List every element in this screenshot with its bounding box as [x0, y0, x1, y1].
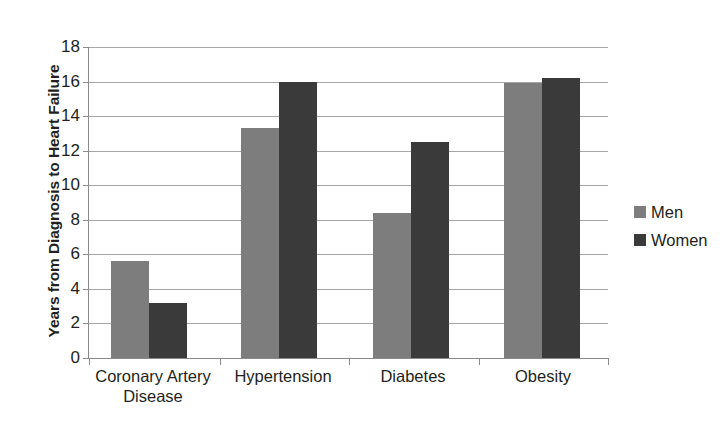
bar-coronary-artery-disease-men: [111, 261, 149, 358]
y-tick-label-18: 18: [40, 38, 80, 55]
legend-label-women: Women: [651, 231, 708, 249]
gridline-18: [89, 47, 608, 48]
x-divider-2: [349, 358, 350, 365]
y-tick-label-8: 8: [40, 211, 80, 228]
y-tick-label-14: 14: [40, 107, 80, 124]
y-tick-14: [83, 116, 89, 117]
legend-item-men: Men: [634, 198, 726, 226]
y-tick-label-6: 6: [40, 245, 80, 262]
x-cat-label-obesity: Obesity: [458, 366, 628, 386]
chart-legend: MenWomen: [634, 198, 726, 254]
y-tick-label-4: 4: [40, 280, 80, 297]
y-tick-label-2: 2: [40, 314, 80, 331]
y-tick-label-16: 16: [40, 73, 80, 90]
legend-swatch-women: [634, 234, 646, 246]
legend-item-women: Women: [634, 226, 726, 254]
y-tick-2: [83, 323, 89, 324]
bar-obesity-men: [504, 83, 542, 358]
y-tick-12: [83, 151, 89, 152]
bar-hypertension-women: [279, 82, 317, 358]
x-divider-1: [220, 358, 221, 365]
y-tick-label-12: 12: [40, 142, 80, 159]
x-axis-end-cap-2: [608, 358, 609, 365]
y-tick-10: [83, 185, 89, 186]
x-divider-3: [479, 358, 480, 365]
y-tick-6: [83, 254, 89, 255]
bar-chart-figure: Years from Diagnosis to Heart Failure 18…: [0, 0, 726, 446]
bar-diabetes-men: [373, 213, 411, 358]
y-tick-4: [83, 289, 89, 290]
legend-label-men: Men: [651, 203, 683, 221]
y-tick-8: [83, 220, 89, 221]
y-tick-16: [83, 82, 89, 83]
x-axis-end-cap-1: [89, 358, 90, 365]
y-tick-label-0: 0: [40, 349, 80, 366]
y-tick-label-10: 10: [40, 176, 80, 193]
bar-coronary-artery-disease-women: [149, 303, 187, 358]
bar-hypertension-men: [241, 128, 279, 358]
y-tick-18: [83, 47, 89, 48]
x-cat-label-line: Obesity: [458, 366, 628, 386]
x-cat-label-line: Disease: [68, 386, 238, 406]
plot-area: [88, 47, 607, 358]
legend-swatch-men: [634, 206, 646, 218]
bar-diabetes-women: [411, 142, 449, 358]
bar-obesity-women: [542, 78, 580, 358]
